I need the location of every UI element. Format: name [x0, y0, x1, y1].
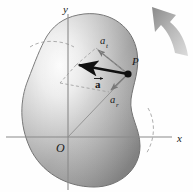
- blob-shading: [22, 14, 140, 187]
- origin-label: O: [56, 141, 65, 155]
- arc-right-icon: [146, 108, 153, 154]
- point-p-marker: [124, 70, 131, 77]
- rigid-body-blob: [22, 14, 140, 187]
- rotation-direction-arrow: [152, 7, 188, 56]
- y-axis-label: y: [62, 3, 68, 15]
- point-p-label: P: [131, 55, 139, 67]
- tangential-acceleration-label: a: [100, 35, 105, 46]
- x-axis-label: x: [176, 132, 182, 144]
- radial-acceleration-label: a: [110, 94, 115, 105]
- diagram-svg: x y O P a a t a r: [0, 0, 193, 192]
- radial-acceleration-subscript: r: [116, 101, 119, 109]
- total-acceleration-label: a: [95, 78, 101, 90]
- figure-canvas: x y O P a a t a r: [0, 0, 193, 192]
